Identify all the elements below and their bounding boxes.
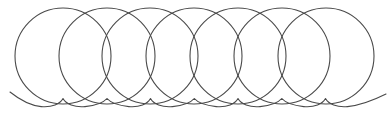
figure-container (0, 0, 392, 115)
geometry-figure-svg (0, 0, 392, 115)
